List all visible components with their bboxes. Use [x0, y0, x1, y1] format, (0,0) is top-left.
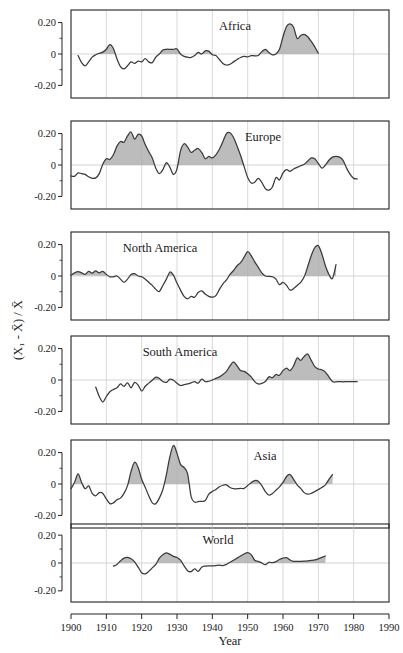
y-tick-label: 0 [51, 271, 56, 282]
y-tick-label: 0.20 [38, 343, 56, 354]
x-tick-label: 1970 [308, 622, 329, 633]
y-tick-label: 0 [51, 160, 56, 171]
x-tick-label: 1940 [202, 622, 223, 633]
y-tick-label: -0.20 [34, 406, 56, 417]
y-tick-label: 0.20 [38, 530, 56, 541]
panel-title: World [203, 533, 235, 547]
x-tick-label: 1920 [131, 622, 152, 633]
panel-title: Europe [245, 130, 282, 144]
x-tick-label: 1960 [273, 622, 294, 633]
x-tick-label: 1950 [237, 622, 258, 633]
panel-title: Africa [219, 19, 251, 33]
y-tick-label: 0 [51, 558, 56, 569]
panel-title: South America [143, 345, 218, 359]
y-tick-label: 0.20 [38, 239, 56, 250]
x-axis-title: Year [218, 634, 242, 648]
x-tick-label: 1990 [379, 622, 400, 633]
y-tick-label: 0.20 [38, 447, 56, 458]
y-axis-title: (X₁ - X̄) / X̄ [11, 300, 25, 360]
multi-panel-timeseries-chart: 0.200-0.20Africa0.200-0.20Europe0.200-0.… [0, 0, 403, 653]
y-tick-label: 0 [51, 479, 56, 490]
y-tick-label: -0.20 [34, 585, 56, 596]
x-tick-label: 1930 [167, 622, 188, 633]
y-tick-label: 0.20 [38, 128, 56, 139]
y-tick-label: 0 [51, 375, 56, 386]
chart-figure: 0.200-0.20Africa0.200-0.20Europe0.200-0.… [0, 0, 403, 653]
x-tick-label: 1980 [343, 622, 364, 633]
x-tick-label: 1900 [61, 622, 82, 633]
y-tick-label: -0.20 [34, 510, 56, 521]
y-tick-label: 0.20 [38, 17, 56, 28]
panel-title: North America [123, 241, 198, 255]
y-tick-label: -0.20 [34, 80, 56, 91]
y-tick-label: -0.20 [34, 302, 56, 313]
x-tick-label: 1910 [96, 622, 117, 633]
y-tick-label: -0.20 [34, 191, 56, 202]
panel-title: Asia [254, 449, 277, 463]
y-tick-label: 0 [51, 49, 56, 60]
